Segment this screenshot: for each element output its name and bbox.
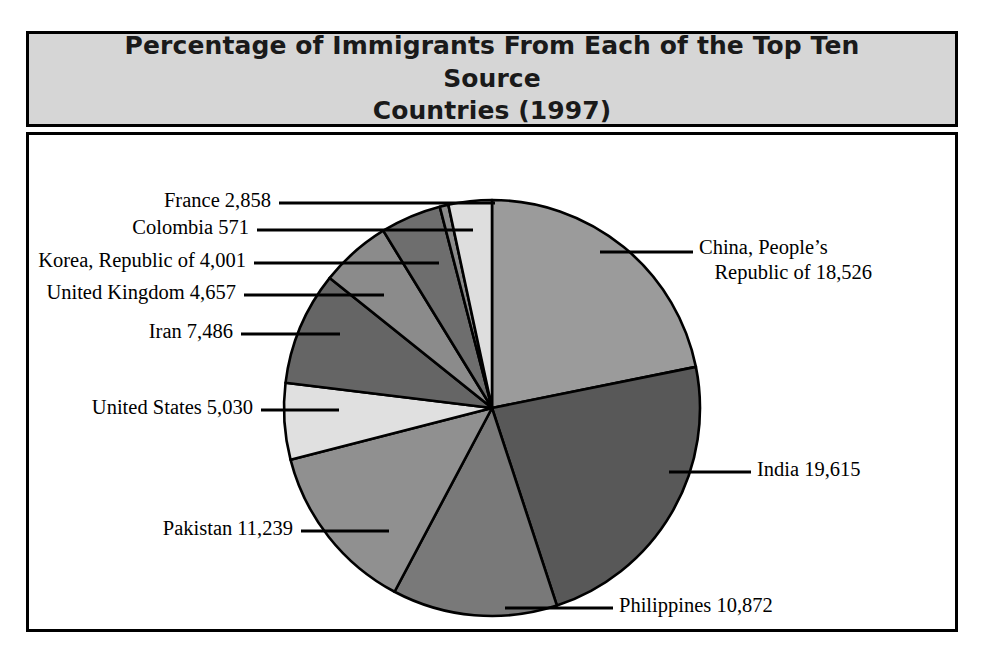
slice-label-iran: Iran 7,486 [29, 319, 233, 344]
chart-plot-area: China, People’s Republic of 18,526 India… [26, 132, 958, 632]
slice-label-philippines: Philippines 10,872 [619, 593, 773, 618]
slice-label-united-states: United States 5,030 [29, 395, 253, 420]
slice-label-france: France 2,858 [29, 188, 271, 213]
slice-label-china: China, People’s Republic of 18,526 [699, 235, 872, 286]
slice-label-colombia: Colombia 571 [29, 215, 249, 240]
page-title: Percentage of Immigrants From Each of th… [29, 30, 955, 128]
slice-label-united-kingdom: United Kingdom 4,657 [29, 280, 236, 305]
slice-label-india: India 19,615 [757, 457, 861, 482]
slice-label-korea: Korea, Republic of 4,001 [29, 248, 246, 273]
chart-figure: Percentage of Immigrants From Each of th… [26, 31, 958, 632]
chart-title-bar: Percentage of Immigrants From Each of th… [26, 31, 958, 127]
slice-label-pakistan: Pakistan 11,239 [29, 516, 293, 541]
